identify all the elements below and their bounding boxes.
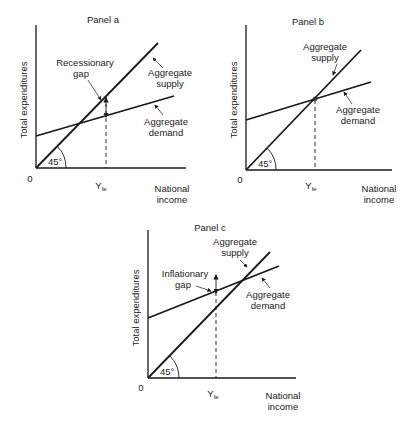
x-axis-label-line2: income [364,194,395,205]
demand-pointer [155,105,163,115]
gap-label-line2: gap [175,279,191,290]
gap-label-line1: Inflationary [162,268,209,279]
angle-label: 45° [160,366,175,377]
x-axis-label-line1: National [266,390,301,401]
demand-label-line2: demand [149,127,183,138]
y-axis-label: Total expenditures [130,269,141,346]
supply-label-line1: Aggregate [303,41,347,52]
demand-pointer [344,92,352,104]
panel-a: Panel a Total expenditures 0 45° Yfe Rec… [18,14,192,205]
panel-b-title: Panel b [292,16,324,27]
demand-label-line1: Aggregate [144,116,188,127]
gap-pointer [196,286,211,291]
supply-label-line1: Aggregate [148,67,192,78]
supply-pointer [240,260,247,267]
supply-label-line2: supply [221,247,249,258]
y-axis-label: Total expenditures [18,61,29,138]
panel-c: Panel c Total expenditures 0 45° Yfe Inf… [130,222,300,412]
x-axis-label-line2: income [157,194,188,205]
demand-label-line2: demand [251,300,285,311]
angle-label: 45° [258,158,273,169]
x-axis-label-line1: National [155,183,190,194]
supply-pointer [333,64,337,75]
panel-c-title: Panel c [194,222,226,233]
demand-label-line1: Aggregate [246,289,290,300]
panel-b: Panel b Total expenditures 0 45° Yfe Agg… [228,16,396,205]
yfe-label: Yfe [95,180,107,192]
x-axis-label-line2: income [268,401,299,412]
origin-label: 0 [138,382,143,393]
panel-a-title: Panel a [87,14,120,25]
gap-label-line2: gap [73,68,89,79]
origin-label: 0 [237,174,242,185]
angle-label: 45° [48,156,63,167]
supply-label-line2: supply [156,78,184,89]
demand-label-line2: demand [341,115,375,126]
yfe-label: Yfe [207,388,219,400]
demand-label-line1: Aggregate [336,104,380,115]
supply-label-line1: Aggregate [213,236,257,247]
gap-label-line1: Recessionary [56,57,114,68]
supply-label-line2: supply [311,52,339,63]
demand-pointer [262,278,270,288]
yfe-label: Yfe [305,180,317,192]
keynesian-cross-diagrams: Panel a Total expenditures 0 45° Yfe Rec… [0,0,401,421]
y-axis-label: Total expenditures [228,61,239,138]
gap-pointer [88,80,101,100]
x-axis-label-line1: National [362,183,397,194]
origin-label: 0 [27,173,32,184]
